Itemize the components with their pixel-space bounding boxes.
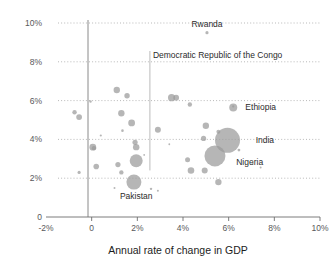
x-axis-ticks bbox=[92, 217, 320, 221]
bubble-point bbox=[204, 145, 225, 166]
y-tick-label: 6% bbox=[30, 96, 43, 106]
bubble-point bbox=[188, 167, 195, 174]
bubble-point bbox=[78, 171, 81, 174]
bubble-point bbox=[119, 170, 123, 174]
annotation-label-india: India bbox=[256, 135, 275, 145]
bubble-point bbox=[133, 144, 139, 150]
bubble-point bbox=[115, 162, 120, 167]
y-tick-label: 4% bbox=[30, 134, 43, 144]
point-annotations: RwandaDemocratic Republic of the CongoEt… bbox=[120, 19, 283, 201]
bubble-point bbox=[155, 127, 161, 133]
y-tick-label: 8% bbox=[30, 57, 43, 67]
bubble-point bbox=[118, 110, 124, 116]
chart-canvas: -2%02%4%6%8%10% 02%4%6%8%10% RwandaDemoc… bbox=[0, 0, 331, 263]
annotation-label-ethiopia: Ethiopia bbox=[245, 102, 276, 112]
gridlines bbox=[58, 23, 320, 178]
y-tick-label: 0 bbox=[37, 212, 42, 222]
annotation-label-nigeria: Nigeria bbox=[236, 157, 263, 167]
bubble-point bbox=[185, 157, 190, 162]
y-axis-tick-labels: 02%4%6%8%10% bbox=[25, 18, 42, 222]
bubble-point bbox=[130, 154, 143, 167]
x-tick-label: -2% bbox=[38, 223, 54, 233]
x-tick-label: 6% bbox=[223, 223, 236, 233]
bubble-point bbox=[76, 114, 82, 120]
bubble-point bbox=[124, 93, 129, 98]
bubble-point bbox=[89, 100, 91, 102]
bubble-point bbox=[92, 146, 96, 150]
bubble-point bbox=[205, 31, 208, 34]
bubble-point bbox=[72, 110, 76, 114]
bubble-point bbox=[157, 190, 159, 192]
x-axis-tick-labels: -2%02%4%6%8%10% bbox=[38, 223, 329, 233]
bubble-point bbox=[201, 136, 206, 141]
bubble-point bbox=[168, 143, 170, 145]
annotation-label-pakistan: Pakistan bbox=[120, 191, 153, 201]
x-axis-title: Annual rate of change in GDP bbox=[108, 244, 248, 256]
y-tick-label: 10% bbox=[25, 18, 42, 28]
bubble-point bbox=[260, 167, 262, 169]
bubble-point bbox=[238, 149, 241, 152]
bubble-point bbox=[188, 102, 192, 106]
bubble-point bbox=[126, 175, 141, 190]
bubble-point bbox=[215, 179, 221, 185]
x-tick-label: 2% bbox=[131, 223, 144, 233]
x-tick-label: 0 bbox=[89, 223, 94, 233]
bubble-point bbox=[143, 154, 145, 156]
x-tick-label: 8% bbox=[268, 223, 281, 233]
bubble-point bbox=[121, 129, 124, 132]
bubble-point bbox=[128, 120, 135, 127]
y-tick-label: 2% bbox=[30, 173, 43, 183]
bubble-point bbox=[114, 87, 120, 93]
annotation-label-democratic-republic-of-the-congo: Democratic Republic of the Congo bbox=[153, 50, 283, 60]
bubble-point bbox=[232, 105, 234, 107]
bubble-point bbox=[203, 123, 209, 129]
annotation-label-rwanda: Rwanda bbox=[191, 19, 222, 29]
bubble-point bbox=[100, 134, 102, 136]
bubble-chart: -2%02%4%6%8%10% 02%4%6%8%10% RwandaDemoc… bbox=[0, 0, 331, 263]
bubble-point bbox=[93, 164, 99, 170]
bubble-point bbox=[114, 187, 116, 189]
bubble-point bbox=[202, 167, 208, 173]
bubble-point bbox=[173, 95, 179, 101]
x-tick-label: 4% bbox=[177, 223, 190, 233]
x-tick-label: 10% bbox=[311, 223, 328, 233]
